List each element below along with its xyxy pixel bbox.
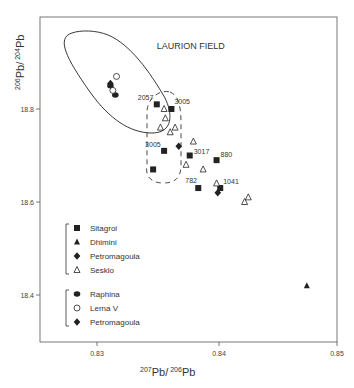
y-tick-label: 18.4 bbox=[20, 292, 34, 299]
open-triangle-marker-icon bbox=[200, 166, 206, 172]
square-marker-icon bbox=[168, 106, 174, 112]
legend: SitagroiDhiminiPetromagoulaSeskloRaphina… bbox=[66, 224, 140, 327]
legend-item-label: Dhimini bbox=[90, 238, 117, 247]
open-circle-marker-icon bbox=[114, 73, 120, 79]
x-tick-label: 0.85 bbox=[330, 350, 344, 357]
diamond-marker-icon bbox=[74, 318, 81, 326]
open-triangle-marker-icon bbox=[183, 161, 189, 167]
open-circle-marker-icon bbox=[110, 87, 116, 93]
open-triangle-marker-icon bbox=[245, 194, 251, 200]
open-triangle-marker-icon bbox=[214, 180, 220, 186]
laurion-field-outline bbox=[64, 31, 170, 133]
open-triangle-marker-icon bbox=[74, 267, 80, 273]
annotations: LAURION FIELD bbox=[157, 41, 226, 51]
y-tick-label: 18.6 bbox=[20, 199, 34, 206]
open-triangle-marker-icon bbox=[162, 115, 168, 121]
legend-group-bracket bbox=[66, 290, 69, 326]
open-triangle-marker-icon bbox=[172, 124, 178, 130]
sample-label: 880 bbox=[221, 151, 233, 158]
square-marker-icon bbox=[187, 153, 193, 159]
axes: 0.830.840.8518.818.618.4 bbox=[20, 106, 344, 358]
filled-triangle-marker-icon bbox=[304, 282, 310, 288]
legend-item-label: Petromagoula bbox=[90, 318, 140, 327]
sample-label: 1041 bbox=[223, 178, 239, 185]
legend-item-label: Sesklo bbox=[90, 266, 115, 275]
legend-item-label: Petromagoula bbox=[90, 252, 140, 261]
y-axis-title: 206Pb/204Pb bbox=[14, 35, 26, 90]
y-tick-label: 18.8 bbox=[20, 106, 34, 113]
x-tick-label: 0.84 bbox=[212, 350, 226, 357]
filled-circle-marker-icon bbox=[74, 291, 81, 296]
open-triangle-marker-icon bbox=[161, 106, 167, 112]
square-marker-icon bbox=[154, 101, 160, 107]
filled-triangle-marker-icon bbox=[74, 239, 80, 245]
x-axis-title: 207Pb/206Pb bbox=[140, 366, 195, 378]
legend-group-bracket bbox=[66, 224, 69, 274]
laurion-field-label: LAURION FIELD bbox=[157, 41, 226, 51]
open-triangle-marker-icon bbox=[157, 124, 163, 130]
square-marker-icon bbox=[161, 148, 167, 154]
legend-item-label: Lerna V bbox=[90, 304, 119, 313]
square-marker-icon bbox=[74, 225, 80, 231]
open-circle-marker-icon bbox=[74, 305, 80, 311]
square-marker-icon bbox=[214, 157, 220, 163]
sample-label: 3017 bbox=[194, 148, 210, 155]
lead-isotope-scatter-chart: 0.830.840.8518.818.618.4 205730053005301… bbox=[0, 0, 354, 388]
open-triangle-marker-icon bbox=[190, 138, 196, 144]
sample-label: 3005 bbox=[145, 141, 161, 148]
legend-item-label: Raphina bbox=[90, 290, 120, 299]
diamond-marker-icon bbox=[74, 252, 81, 260]
sample-label: 3005 bbox=[174, 98, 190, 105]
sample-label: 2057 bbox=[138, 94, 154, 101]
sample-label: 782 bbox=[185, 177, 197, 184]
square-marker-icon bbox=[195, 185, 201, 191]
x-tick-label: 0.83 bbox=[90, 350, 104, 357]
legend-item-label: Sitagroi bbox=[90, 224, 117, 233]
square-marker-icon bbox=[150, 166, 156, 172]
